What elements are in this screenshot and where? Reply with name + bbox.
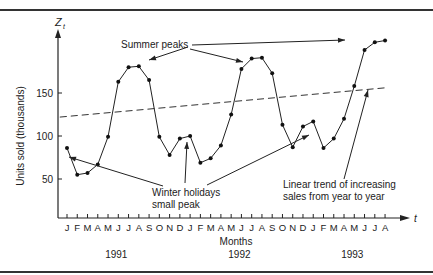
data-point [106,135,110,139]
month-label: A [136,222,143,233]
data-point [291,145,295,149]
trend-line [60,88,385,117]
x-axis-label: Months [220,236,253,247]
data-series [65,39,387,177]
month-label: N [289,222,296,233]
data-point [116,80,120,84]
x-axis-symbol: t [414,213,418,224]
year-label: 1992 [228,249,251,260]
data-point [352,84,356,88]
month-label: M [104,222,112,233]
annotation-winter-line1: Winter holidays [152,187,220,198]
month-label: O [156,222,163,233]
arrowhead-icon [184,142,189,149]
month-label: A [382,222,389,233]
annotation-summer-peaks: Summer peaks [121,39,188,50]
data-point [239,67,243,71]
month-label: M [84,222,92,233]
data-point [311,119,315,123]
month-label: F [74,222,80,233]
data-point [209,156,213,160]
data-point [198,161,202,165]
data-point [280,123,284,127]
data-point [250,57,254,61]
month-label: M [207,222,215,233]
y-axis-subscript: t [63,23,66,30]
month-label: A [341,222,348,233]
month-label: J [311,222,316,233]
data-point [127,65,131,69]
data-point [178,137,182,141]
data-point [270,71,274,75]
data-point [65,146,69,150]
annotation-trend-line2: sales from year to year [283,191,385,202]
month-label: S [269,222,275,233]
month-label: O [279,222,286,233]
month-label: D [300,222,307,233]
month-label: M [227,222,235,233]
month-label: J [126,222,131,233]
month-label: M [330,222,338,233]
line-chart: Ztt50100150Units sold (thousands)JFMAMJJ… [0,0,433,275]
month-label: N [166,222,173,233]
month-label: A [259,222,266,233]
data-point [373,40,377,44]
series-line [67,41,385,175]
arrow-winter-1991 [69,157,163,186]
month-label: J [372,222,377,233]
y-tick-label: 50 [42,174,54,185]
arrowhead-icon [338,38,345,43]
data-point [322,146,326,150]
month-label: J [249,222,254,233]
data-point [342,117,346,121]
month-label: A [218,222,225,233]
data-point [332,137,336,141]
month-label: J [116,222,121,233]
arrowhead-icon [236,58,243,63]
month-label: A [95,222,102,233]
data-point [157,135,161,139]
data-point [229,113,233,117]
month-label: F [321,222,327,233]
y-axis-symbol: Z [54,16,63,28]
y-axis-arrow-icon [55,29,61,38]
month-label: D [176,222,183,233]
arrowhead-icon [302,135,309,140]
y-axis-label: Units sold (thousands) [15,86,26,186]
month-label: J [188,222,193,233]
month-label: J [362,222,367,233]
arrow-trend [344,90,368,179]
data-point [260,56,264,60]
arrowhead-icon [364,90,369,97]
axes: Ztt50100150Units sold (thousands)JFMAMJJ… [15,16,418,260]
arrow-summer-1993 [192,40,345,45]
month-label: M [350,222,358,233]
data-point [137,64,141,68]
month-label: J [65,222,70,233]
x-axis-arrow-icon [400,215,410,221]
y-tick-label: 100 [36,131,53,142]
data-point [383,39,387,43]
annotations: Summer peaksWinter holidayssmall peakLin… [69,38,396,210]
data-point [188,134,192,138]
trend-line-path [60,88,385,117]
arrow-summer-1992 [190,49,243,62]
data-point [75,173,79,177]
month-label: J [239,222,244,233]
data-point [363,48,367,52]
data-point [147,78,151,82]
annotation-trend-line1: Linear trend of increasing [283,179,396,190]
annotation-winter-line2: small peak [152,199,201,210]
data-point [301,125,305,129]
y-tick-label: 150 [36,88,53,99]
year-label: 1993 [341,249,364,260]
month-label: S [146,222,152,233]
month-label: F [197,222,203,233]
data-point [168,153,172,157]
data-point [86,171,90,175]
year-label: 1991 [105,249,128,260]
arrowhead-icon [69,157,76,162]
arrowhead-icon [149,55,156,60]
data-point [219,143,223,147]
